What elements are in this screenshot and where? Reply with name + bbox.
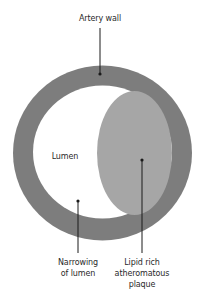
narrowing-label-line2: of lumen (48, 268, 108, 279)
plaque-shape (97, 91, 172, 215)
plaque-label-line3: plaque (107, 279, 177, 290)
narrowing-label: Narrowing of lumen (48, 257, 108, 279)
artery-wall-dot (98, 72, 101, 75)
artery-diagram (0, 0, 206, 295)
narrowing-label-line1: Narrowing (48, 257, 108, 268)
plaque-label: Lipid rich atheromatous plaque (107, 257, 177, 290)
plaque-label-line1: Lipid rich (107, 257, 177, 268)
narrowing-dot (76, 199, 79, 202)
lumen-label: Lumen (50, 151, 80, 162)
plaque-dot (140, 158, 143, 161)
artery-wall-label: Artery wall (70, 13, 130, 24)
plaque-label-line2: atheromatous (107, 268, 177, 279)
